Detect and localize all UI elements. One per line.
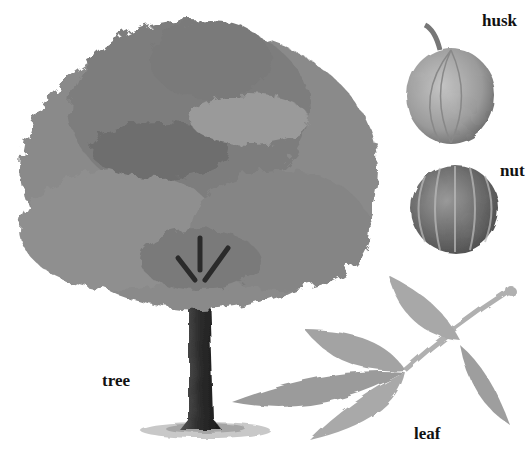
- label-leaf: leaf: [414, 425, 440, 442]
- illustration-svg: [0, 0, 532, 452]
- husk-illustration: [407, 25, 495, 144]
- label-nut: nut: [500, 162, 525, 179]
- label-husk: husk: [482, 12, 517, 29]
- botanical-illustration: husk nut tree leaf: [0, 0, 532, 452]
- trunk: [180, 292, 222, 430]
- label-tree: tree: [102, 372, 130, 389]
- nut-illustration: [411, 165, 499, 253]
- leaf-illustration: [232, 275, 515, 440]
- tree-illustration: [20, 20, 378, 438]
